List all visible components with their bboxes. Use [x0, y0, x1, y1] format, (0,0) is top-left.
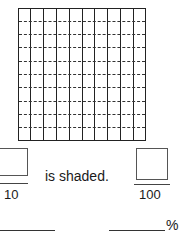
shaded-sentence: is shaded.: [45, 170, 109, 183]
grid-row-line: [19, 101, 145, 102]
percent-sign: %: [166, 219, 178, 231]
hundredths-fraction-bar: [134, 184, 170, 185]
grid-row-line: [19, 47, 145, 48]
grid-row-line: [19, 127, 145, 128]
grid-row-line: [19, 21, 145, 22]
grid-row-line: [19, 74, 145, 75]
grid-row-line: [19, 34, 145, 35]
tenths-denominator: 10: [4, 188, 18, 201]
decimal-answer-blank[interactable]: [0, 230, 55, 231]
tenths-fraction-bar: [0, 183, 28, 184]
hundred-grid: [18, 8, 146, 141]
tenths-numerator-box[interactable]: [0, 148, 28, 176]
percent-answer-blank[interactable]: [109, 230, 165, 231]
hundredths-numerator-box[interactable]: [136, 148, 168, 180]
hundredths-denominator: 100: [139, 188, 161, 201]
grid-row-line: [19, 61, 145, 62]
grid-row-line: [19, 114, 145, 115]
grid-row-line: [19, 87, 145, 88]
